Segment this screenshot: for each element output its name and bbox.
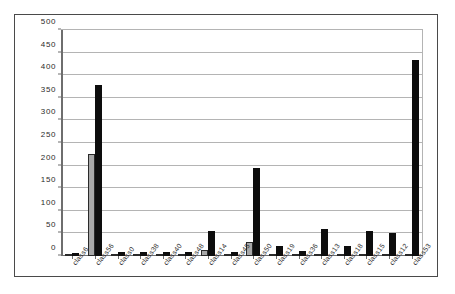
x-label-cell: class12 [378, 256, 401, 294]
bar-group[interactable] [242, 30, 265, 256]
y-tick-label: 250 [41, 130, 56, 139]
y-tick-label: 100 [41, 197, 56, 206]
x-label-cell: class14 [197, 256, 220, 294]
bar[interactable] [95, 85, 102, 256]
bar-group[interactable] [310, 30, 333, 256]
bar-group[interactable] [84, 30, 107, 256]
bar-group[interactable] [287, 30, 310, 256]
y-tick-label: 400 [41, 62, 56, 71]
x-label-cell: class0 [106, 256, 129, 294]
bar-group[interactable] [265, 30, 288, 256]
x-label-cell: class45 [219, 256, 242, 294]
bar-group[interactable] [333, 30, 356, 256]
y-tick-label: 150 [41, 175, 56, 184]
bar-group[interactable] [61, 30, 84, 256]
bar-group[interactable] [197, 30, 220, 256]
plot-area: 050100150200250300350400450500 [61, 30, 423, 256]
x-label-cell: class40 [152, 256, 175, 294]
bar-group[interactable] [400, 30, 423, 256]
x-label-cell: class56 [84, 256, 107, 294]
x-label-cell: class18 [333, 256, 356, 294]
bar-group[interactable] [219, 30, 242, 256]
bar-group[interactable] [129, 30, 152, 256]
x-label-cell: class50 [242, 256, 265, 294]
bar-group[interactable] [152, 30, 175, 256]
bar[interactable] [88, 154, 95, 256]
bar-series-container [61, 30, 423, 256]
x-label-cell: class53 [400, 256, 423, 294]
y-tick-label: 50 [46, 220, 56, 229]
x-label-cell: class15 [355, 256, 378, 294]
x-label-cell: class36 [287, 256, 310, 294]
y-tick-label: 350 [41, 84, 56, 93]
x-label-cell: class19 [265, 256, 288, 294]
x-label-cell: class13 [310, 256, 333, 294]
y-tick-label: 450 [41, 39, 56, 48]
bar-group[interactable] [174, 30, 197, 256]
bar-group[interactable] [378, 30, 401, 256]
bar[interactable] [253, 168, 260, 256]
y-tick-label: 200 [41, 152, 56, 161]
x-label-cell: class38 [129, 256, 152, 294]
bar-group[interactable] [355, 30, 378, 256]
x-axis-tick-labels: class6class56class0class38class40class48… [61, 256, 423, 294]
x-label-cell: class48 [174, 256, 197, 294]
x-label-cell: class6 [61, 256, 84, 294]
bar-group[interactable] [106, 30, 129, 256]
y-tick-label: 0 [51, 243, 56, 252]
y-tick-label: 500 [41, 17, 56, 26]
chart-frame: 050100150200250300350400450500 class6cla… [14, 14, 438, 277]
bar[interactable] [412, 60, 419, 256]
y-tick-label: 300 [41, 107, 56, 116]
